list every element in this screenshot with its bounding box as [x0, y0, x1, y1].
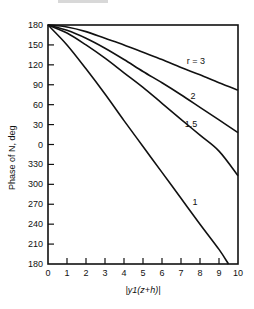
y-tick-label: 60: [33, 100, 43, 110]
y-tick-label: 300: [28, 179, 43, 189]
curve-r1.5: [48, 25, 238, 176]
x-tick-label: 6: [159, 268, 164, 278]
x-tick-label: 10: [233, 268, 243, 278]
y-tick-label: 210: [28, 239, 43, 249]
curve-label: 2: [190, 91, 195, 101]
x-tick-label: 8: [197, 268, 202, 278]
x-tick-label: 3: [102, 268, 107, 278]
x-tick-label: 0: [45, 268, 50, 278]
x-axis: 012345678910: [45, 258, 243, 278]
y-tick-label: 180: [28, 20, 43, 30]
plot-frame: [48, 25, 238, 264]
y-axis-label: Phase of N, deg: [7, 125, 17, 190]
y-tick-label: 120: [28, 60, 43, 70]
y-tick-label: 30: [33, 120, 43, 130]
x-tick-label: 5: [140, 268, 145, 278]
y-tick-label: 270: [28, 199, 43, 209]
y-tick-label: 0: [38, 140, 43, 150]
x-axis-label: |y1(z+h)|: [126, 285, 161, 295]
x-tick-label: 9: [216, 268, 221, 278]
curves: r = 321.51: [48, 25, 238, 264]
y-axis: 1801501209060300330300270240210180: [28, 20, 54, 269]
x-tick-label: 7: [178, 268, 183, 278]
title-fragment: [58, 0, 108, 3]
y-tick-label: 90: [33, 80, 43, 90]
x-tick-label: 1: [64, 268, 69, 278]
phase-chart: 1801501209060300330300270240210180 01234…: [0, 0, 254, 309]
curve-label: 1: [192, 197, 197, 207]
y-tick-label: 150: [28, 40, 43, 50]
y-tick-label: 330: [28, 159, 43, 169]
y-tick-label: 240: [28, 219, 43, 229]
x-tick-label: 2: [83, 268, 88, 278]
x-tick-label: 4: [121, 268, 126, 278]
curve-label: 1.5: [185, 119, 198, 129]
curve-label: r = 3: [187, 56, 205, 66]
y-tick-label: 180: [28, 259, 43, 269]
